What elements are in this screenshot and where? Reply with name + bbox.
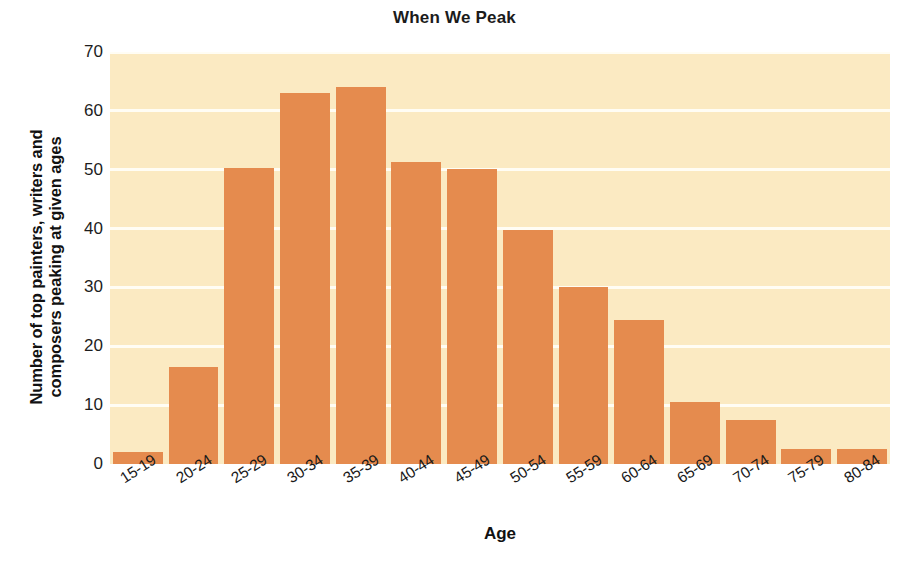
y-axis-tick-label: 40 bbox=[63, 219, 103, 239]
bar[interactable] bbox=[224, 168, 274, 464]
bar[interactable] bbox=[670, 402, 720, 464]
bar[interactable] bbox=[559, 287, 609, 464]
bar[interactable] bbox=[336, 87, 386, 464]
gridline bbox=[110, 109, 890, 112]
y-axis-tick-label: 10 bbox=[63, 395, 103, 415]
y-axis-tick-label: 20 bbox=[63, 336, 103, 356]
bar[interactable] bbox=[169, 367, 219, 464]
bar[interactable] bbox=[614, 320, 664, 464]
y-axis-tick-label: 60 bbox=[63, 101, 103, 121]
bar[interactable] bbox=[391, 162, 441, 464]
chart-figure: When We Peak Number of top painters, wri… bbox=[0, 0, 909, 565]
plot-area bbox=[110, 52, 890, 464]
gridline bbox=[110, 52, 890, 54]
y-axis-tick-labels: 010203040506070 bbox=[55, 52, 103, 464]
y-axis-tick-label: 0 bbox=[63, 454, 103, 474]
x-axis-tick-labels: 15-1920-2425-2930-3435-3940-4445-4950-54… bbox=[110, 464, 890, 524]
bar[interactable] bbox=[503, 230, 553, 464]
y-axis-tick-label: 70 bbox=[63, 42, 103, 62]
y-axis-tick-label: 30 bbox=[63, 277, 103, 297]
x-axis-title: Age bbox=[110, 524, 890, 544]
bar[interactable] bbox=[280, 93, 330, 464]
chart-title: When We Peak bbox=[0, 8, 909, 28]
bar[interactable] bbox=[447, 169, 497, 464]
y-axis-tick-label: 50 bbox=[63, 160, 103, 180]
